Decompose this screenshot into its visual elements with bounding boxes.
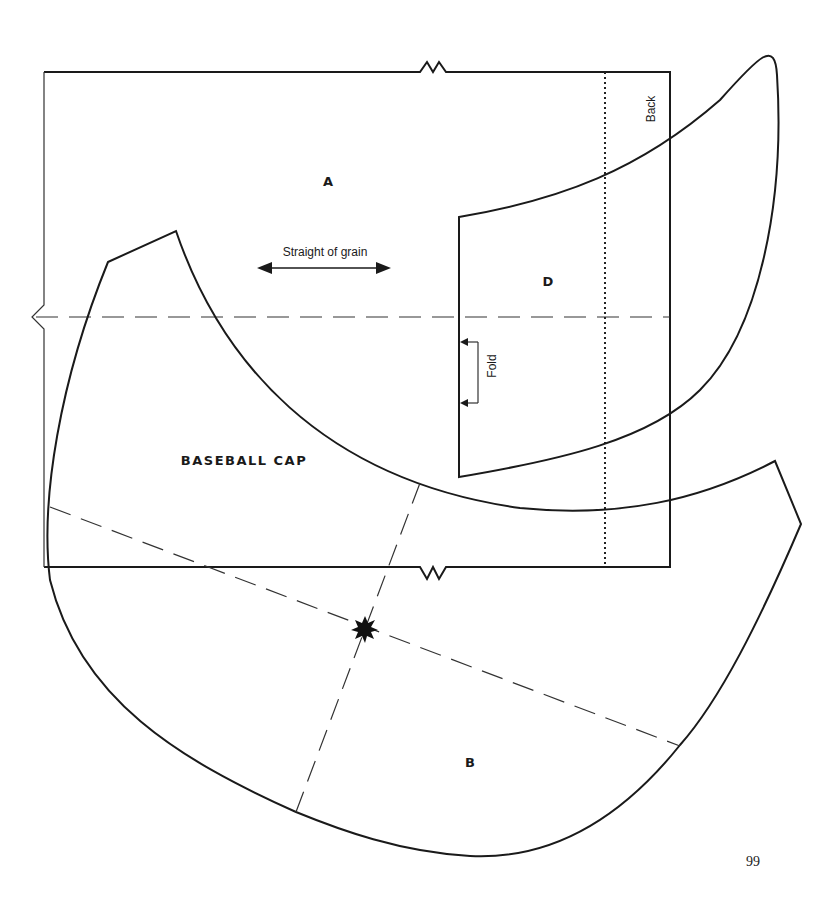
b-dashed-line-vertical — [296, 483, 420, 812]
pattern-diagram: A D B BASEBALL CAP Straight of grain Fol… — [0, 0, 840, 903]
pattern-title: BASEBALL CAP — [181, 453, 307, 468]
grain-arrow-icon — [257, 262, 391, 274]
piece-b-outline — [47, 231, 801, 856]
piece-d-outline — [459, 56, 778, 477]
page-number: 99 — [746, 854, 760, 869]
piece-b-label: B — [465, 755, 475, 770]
piece-a-label: A — [323, 174, 333, 189]
center-star-icon — [351, 616, 378, 643]
fold-arrow-top-icon — [460, 338, 468, 346]
piece-d-label: D — [543, 274, 554, 289]
piece-a-outline — [32, 62, 670, 579]
grain-label: Straight of grain — [283, 245, 368, 259]
fold-arrow-bottom-icon — [460, 399, 468, 407]
fold-bracket — [460, 338, 478, 407]
fold-label: Fold — [485, 354, 499, 377]
fold-notch-left — [32, 72, 44, 567]
back-label: Back — [644, 95, 658, 123]
